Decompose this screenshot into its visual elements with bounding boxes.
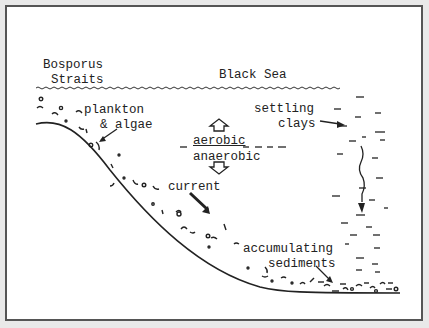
settling-arrowhead <box>358 203 365 213</box>
label-clays: clays <box>278 117 316 131</box>
label-black-sea: Black Sea <box>219 68 287 82</box>
sediment-pile <box>318 282 398 292</box>
label-plankton: plankton <box>84 103 144 117</box>
label-current: current <box>168 180 221 194</box>
current-arrow <box>190 193 208 210</box>
sea-floor-line <box>36 123 400 293</box>
water-surface-line <box>36 87 340 89</box>
settling-arrow <box>359 146 364 202</box>
label-anaerobic: anaerobic <box>193 150 261 164</box>
label-sediments: sediments <box>268 257 336 271</box>
label-bosporus: Bosporus <box>43 58 103 72</box>
label-accumulating: accumulating <box>243 242 333 256</box>
label-straits: Straits <box>51 73 104 87</box>
label-aerobic: aerobic <box>193 134 246 148</box>
up-arrow-icon <box>210 119 228 131</box>
diagram-drawing <box>0 0 429 328</box>
label-algae: & algae <box>100 118 153 132</box>
label-settling: settling <box>254 102 314 116</box>
